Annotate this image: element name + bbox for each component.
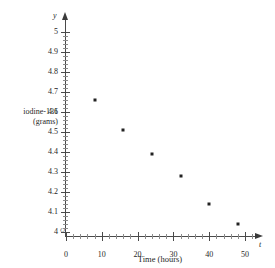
y-axis-minor-tick [63,140,68,141]
y-axis-minor-tick [63,36,68,37]
y-axis-tick-label-text: 4.5 [28,128,58,136]
x-axis-minor-tick [195,234,196,239]
x-axis-minor-tick [95,234,96,239]
data-point [93,99,96,102]
x-axis-minor-tick [188,234,189,239]
y-axis-tick-label-text: 4.3 [28,168,58,176]
y-axis-minor-tick [63,220,68,221]
x-axis-minor-tick [216,234,217,239]
y-axis-tick-label: 4.5 [28,128,58,136]
x-axis-tick [138,232,139,241]
y-axis-minor-tick [63,136,68,137]
y-axis-tick-label: 4.9 [28,48,58,56]
y-axis-minor-tick [63,180,68,181]
data-point [179,175,182,178]
y-axis-tick [61,72,70,73]
y-axis-title-line1: iodine-131 [23,107,58,116]
y-axis-tick-label: 4 [28,228,58,236]
x-axis-tick-label: 50 [232,243,258,261]
y-axis-minor-tick [63,64,68,65]
y-axis-tick-label-text: 5 [28,28,58,36]
x-axis-tick [245,232,246,241]
x-axis-minor-tick [109,234,110,239]
data-point [236,223,239,226]
y-axis-minor-tick [63,40,68,41]
x-axis-tick-label-text: 50 [241,250,249,259]
y-axis-minor-tick [63,104,68,105]
x-axis-tick [209,232,210,241]
y-axis-minor-tick [63,76,68,77]
y-axis-tick-label: 4.4 [28,148,58,156]
x-axis-minor-tick [145,234,146,239]
y-axis-tick [61,172,70,173]
x-axis-minor-tick [238,234,239,239]
y-axis-minor-tick [63,144,68,145]
y-axis-minor-tick [63,48,68,49]
x-axis-minor-tick [202,234,203,239]
y-axis-tick-label-text: 4.7 [28,88,58,96]
y-axis-minor-tick [63,68,68,69]
y-axis-tick-label: 4.1 [28,208,58,216]
x-axis-minor-tick [166,234,167,239]
y-axis-tick-label-text: 4.1 [28,208,58,216]
scatter-plot-figure: y t O 44.14.24.34.44.54.64.74.84.9501020… [0,0,275,268]
y-axis-tick-label-text: 4 [28,228,58,236]
y-axis-tick-label-text: 4.8 [28,68,58,76]
y-axis-minor-tick [63,156,68,157]
y-axis-tick [61,92,70,93]
y-axis-minor-tick [63,96,68,97]
y-axis-minor-tick [63,184,68,185]
y-axis-minor-tick [63,100,68,101]
y-axis-minor-tick [63,200,68,201]
x-axis-tick [102,232,103,241]
y-axis-minor-tick [63,56,68,57]
y-axis-minor-tick [63,124,68,125]
y-axis-minor-tick [63,204,68,205]
y-axis-tick-label: 5 [28,28,58,36]
y-axis-tick-label: 4.2 [28,188,58,196]
x-axis-minor-tick [73,234,74,239]
x-axis-title: Time (hours) [90,254,230,264]
y-axis-tick [61,192,70,193]
y-axis-minor-tick [63,44,68,45]
x-axis-minor-tick [181,234,182,239]
y-axis-minor-tick [63,160,68,161]
y-axis-arrow-icon [62,12,68,20]
y-axis-minor-tick [63,128,68,129]
y-axis-minor-tick [63,228,68,229]
x-axis-minor-tick [130,234,131,239]
y-axis-tick-label: 4.8 [28,68,58,76]
x-axis-tick [66,232,67,241]
y-axis-minor-tick [63,188,68,189]
y-axis-minor-tick [63,80,68,81]
x-axis-minor-tick [252,234,253,239]
y-axis-tick-label: 4.7 [28,88,58,96]
x-axis-minor-tick [87,234,88,239]
y-axis-minor-tick [63,224,68,225]
data-point [122,129,125,132]
y-axis-tick [61,52,70,53]
y-axis-tick-label-text: 4.4 [28,148,58,156]
y-axis-minor-tick [63,208,68,209]
y-axis-tick [61,212,70,213]
y-axis-tick-label-text: 4.2 [28,188,58,196]
y-axis-minor-tick [63,196,68,197]
data-point [150,153,153,156]
y-axis-minor-tick [63,164,68,165]
y-axis-minor-tick [63,88,68,89]
y-variable-symbol: y [53,11,57,20]
y-axis-minor-tick [63,216,68,217]
x-axis-tick-label: 0 [53,243,79,261]
x-axis-minor-tick [152,234,153,239]
x-axis-minor-tick [159,234,160,239]
x-axis-minor-tick [123,234,124,239]
y-axis-tick [61,112,70,113]
y-axis-tick [61,32,70,33]
y-axis-title-line2: (grams) [2,117,58,127]
y-axis-minor-tick [63,120,68,121]
y-axis-tick [61,132,70,133]
y-axis-tick [61,152,70,153]
x-axis-tick-label-text: 0 [64,250,68,259]
y-axis-minor-tick [63,176,68,177]
data-point [208,203,211,206]
